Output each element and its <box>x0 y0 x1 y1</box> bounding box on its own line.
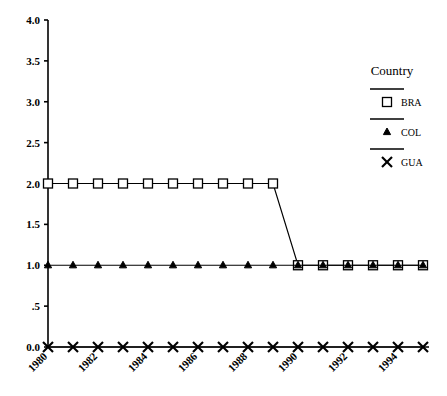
data-point-marker <box>144 261 151 268</box>
legend-title: Country <box>371 63 414 78</box>
data-point-marker <box>194 261 201 268</box>
x-axis-tick-label: 1980 <box>25 350 49 374</box>
x-axis-tick-label: 1984 <box>125 350 149 374</box>
series-bra <box>44 179 428 270</box>
x-axis-tick-label: 1988 <box>225 350 249 374</box>
legend-marker-square-icon <box>383 98 392 107</box>
data-point-marker <box>94 179 103 188</box>
x-axis-tick-label: 1990 <box>275 350 299 374</box>
line-chart: 0.0.51.01.52.02.53.03.54.0 1980198219841… <box>0 0 447 396</box>
chart-legend: CountryBRACOLGUA <box>370 63 423 168</box>
data-point-marker <box>119 179 128 188</box>
data-point-marker <box>44 179 53 188</box>
y-axis-tick-label: 3.5 <box>26 55 40 67</box>
x-axis-tick-label: 1982 <box>75 350 99 374</box>
y-axis-tick-label: 1.5 <box>26 218 40 230</box>
legend-entry-label: GUA <box>401 157 423 168</box>
y-axis-tick-label: 2.5 <box>26 137 40 149</box>
x-axis-tick-label: 1992 <box>325 350 349 374</box>
data-point-marker <box>69 179 78 188</box>
data-point-marker <box>244 179 253 188</box>
data-point-marker <box>244 261 251 268</box>
y-axis-tick-label: .5 <box>32 300 41 312</box>
series-gua <box>43 342 428 352</box>
chart-container: 0.0.51.01.52.02.53.03.54.0 1980198219841… <box>0 0 447 396</box>
data-point-marker <box>144 179 153 188</box>
data-point-marker <box>119 261 126 268</box>
y-axis-tick-label: 2.0 <box>26 178 40 190</box>
data-point-marker <box>219 261 226 268</box>
data-point-marker <box>269 261 276 268</box>
legend-entry-bra[interactable]: BRA <box>370 89 422 108</box>
y-axis-tick-label: 3.0 <box>26 96 40 108</box>
legend-entry-col[interactable]: COL <box>370 119 421 138</box>
legend-entry-label: COL <box>401 127 421 138</box>
data-point-marker <box>169 261 176 268</box>
data-point-marker <box>219 179 228 188</box>
series-line-bra <box>48 184 423 266</box>
x-axis-tick-label: 1994 <box>375 350 399 374</box>
legend-entry-label: BRA <box>401 97 422 108</box>
chart-series-group <box>43 179 428 352</box>
data-point-marker <box>94 261 101 268</box>
legend-marker-triangle-icon <box>383 128 390 135</box>
data-point-marker <box>169 179 178 188</box>
y-axis-tick-label: 4.0 <box>26 14 40 26</box>
data-point-marker <box>69 261 76 268</box>
data-point-marker <box>194 179 203 188</box>
x-axis-tick-label: 1986 <box>175 350 199 374</box>
y-axis-tick-label: 1.0 <box>26 259 40 271</box>
data-point-marker <box>269 179 278 188</box>
legend-marker-x-icon <box>382 157 392 167</box>
legend-entry-gua[interactable]: GUA <box>370 149 423 168</box>
